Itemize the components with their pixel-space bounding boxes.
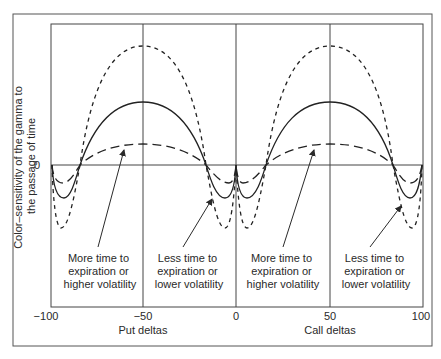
x-axis-label-put: Put deltas (119, 324, 168, 336)
annotation-2: Less time to expiration or lower volatil… (155, 252, 224, 290)
series-short-dash (52, 46, 422, 228)
chart: More time to expiration or higher volati… (0, 0, 441, 359)
x-tick-0: 0 (233, 310, 239, 322)
x-tick-100: 100 (412, 310, 430, 322)
x-tick-minus100: −100 (34, 310, 59, 322)
x-tick-minus50: −50 (134, 310, 153, 322)
x-tick-50: 50 (324, 310, 336, 322)
y-axis-label: Color–sensitivity of the gamma to the pa… (12, 83, 37, 249)
annotation-4: Less time to expiration or lower volatil… (342, 252, 411, 290)
arrow-4 (370, 206, 401, 247)
x-axis-label-call: Call deltas (304, 324, 356, 336)
annotation-1: More time to expiration or higher volati… (64, 252, 137, 290)
annotation-3: More time to expiration or higher volati… (247, 252, 320, 290)
arrow-2 (183, 199, 212, 247)
